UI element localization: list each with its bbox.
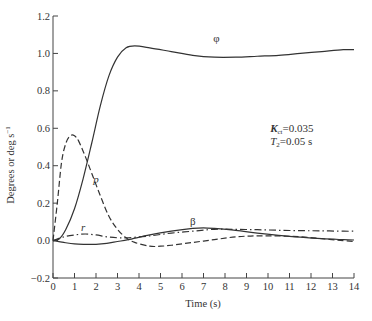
- y-tick-label: −0.2: [31, 273, 50, 284]
- chart-container: −0.20.00.20.40.60.81.01.2012345678910111…: [0, 0, 372, 321]
- y-tick-label: 1.2: [37, 11, 50, 22]
- x-tick-label: 3: [115, 281, 120, 292]
- y-tick-label: 0.8: [37, 85, 50, 96]
- x-tick-label: 0: [50, 281, 55, 292]
- x-tick-label: 1: [72, 281, 77, 292]
- x-tick-label: 10: [263, 281, 274, 292]
- curve-labels: φprβ: [81, 32, 220, 233]
- y-axis-title: Degrees or deg s−1: [4, 126, 16, 204]
- x-tick-label: 11: [284, 281, 294, 292]
- x-tick-label: 6: [179, 281, 184, 292]
- x-tick-label: 13: [327, 281, 338, 292]
- time-constant-annotation: T2=0.05 s: [270, 135, 312, 149]
- curve-label-r: r: [81, 221, 86, 233]
- parameter-annotations: Kct=0.035T2=0.05 s: [269, 122, 314, 149]
- gain-annotation: Kct=0.035: [269, 122, 314, 136]
- curve-label-phi: φ: [213, 32, 219, 44]
- x-axis-title: Time (s): [185, 298, 221, 310]
- y-tick-label: 0.6: [37, 123, 50, 134]
- x-tick-label: 2: [93, 281, 98, 292]
- y-tick-label: 0.0: [37, 235, 50, 246]
- curve-label-p: p: [92, 173, 99, 185]
- curve-label-beta: β: [190, 215, 196, 227]
- x-tick-label: 12: [306, 281, 317, 292]
- x-tick-label: 5: [158, 281, 163, 292]
- x-tick-label: 9: [244, 281, 249, 292]
- x-tick-label: 8: [222, 281, 227, 292]
- y-tick-label: 0.4: [37, 160, 51, 171]
- y-tick-label: 1.0: [37, 48, 50, 59]
- curve-p: [53, 135, 354, 247]
- x-tick-label: 4: [136, 281, 142, 292]
- line-chart: −0.20.00.20.40.60.81.01.2012345678910111…: [0, 0, 372, 321]
- x-tick-label: 7: [201, 281, 206, 292]
- x-tick-label: 14: [349, 281, 360, 292]
- curve-r: [53, 229, 354, 240]
- y-tick-label: 0.2: [37, 198, 50, 209]
